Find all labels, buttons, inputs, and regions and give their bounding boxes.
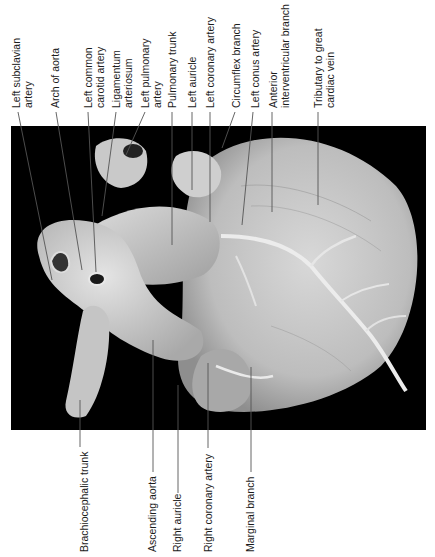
label-tributary-to-great-cardiac-vein: Tributary to great cardiac vein xyxy=(312,28,336,108)
label-left-coronary-artery: Left coronary artery xyxy=(204,17,216,108)
label-right-auricle: Right auricle xyxy=(171,494,183,552)
label-circumflex-branch: Circumflex branch xyxy=(230,23,242,108)
label-ascending-aorta: Ascending aorta xyxy=(146,476,158,552)
heart-anatomy-figure: Left subclavian artery Arch of aorta Lef… xyxy=(0,0,435,557)
label-marginal-branch: Marginal branch xyxy=(244,477,256,552)
brachiocephalic-shape xyxy=(65,306,109,418)
label-left-common-carotid-artery: Left common carotid artery xyxy=(82,47,106,108)
label-left-auricle: Left auricle xyxy=(186,57,198,108)
label-brachiocephalic-trunk: Brachiocephalic trunk xyxy=(78,452,90,552)
heart-illustration xyxy=(11,126,426,430)
label-anterior-interventricular-branch: Anterior interventricular branch xyxy=(267,4,291,108)
label-ligamentum-arteriosum: Ligamentum arteriosum xyxy=(110,50,134,108)
label-pulmonary-trunk: Pulmonary trunk xyxy=(166,32,178,108)
label-right-coronary-artery: Right coronary artery xyxy=(202,454,214,552)
label-left-conus-artery: Left conus artery xyxy=(249,30,261,108)
label-left-pulmonary-artery: Left pulmonary artery xyxy=(139,39,163,108)
label-arch-of-aorta: Arch of aorta xyxy=(49,48,61,108)
heart-photograph xyxy=(11,126,426,430)
label-left-subclavian-artery: Left subclavian artery xyxy=(10,38,34,108)
